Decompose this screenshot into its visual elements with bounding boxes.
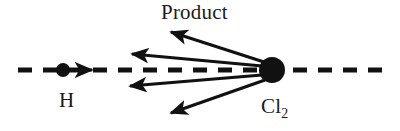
reaction-scattering-figure: Product H Cl2 (0, 0, 400, 131)
chlorine-subscript-text: 2 (281, 106, 288, 121)
chlorine-molecule (259, 57, 285, 83)
product-arrow-3 (130, 75, 262, 86)
chlorine-molecule-label: Cl2 (261, 96, 288, 121)
hydrogen-label: H (59, 90, 74, 111)
product-arrow-4 (171, 80, 265, 113)
hydrogen-atom (56, 63, 70, 77)
chlorine-element-text: Cl (261, 94, 281, 118)
product-label: Product (161, 2, 228, 23)
